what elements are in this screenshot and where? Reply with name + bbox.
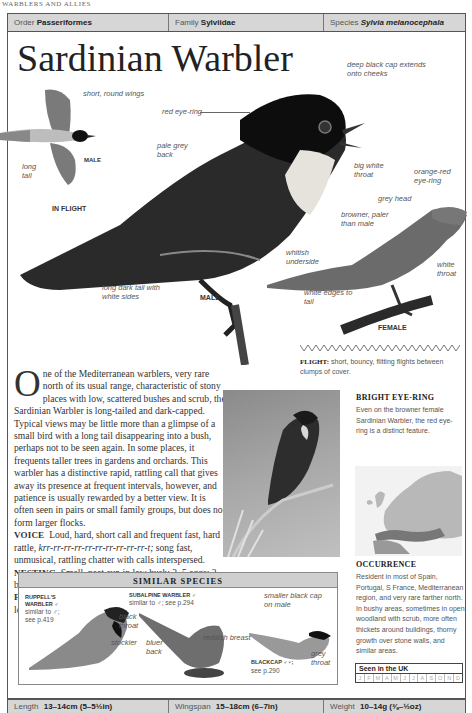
label-white-throat: white throat <box>437 260 467 278</box>
similar-species-note: similar to ♂; see p.419 <box>25 608 65 624</box>
dropcap: O <box>14 369 41 399</box>
label-red-eye-ring: red eye-ring <box>162 107 202 116</box>
length-cell: Length 13–14cm (5–5½in) <box>8 700 169 713</box>
similar-species-note: see p.290 <box>251 667 280 675</box>
measurements-bar: Length 13–14cm (5–5½in) Wingspan 15–18cm… <box>7 699 466 713</box>
similar-species-panel: SIMILAR SPECIES RUPPELL'S WARBLER ♂ simi… <box>18 572 338 685</box>
similar-species-name: RUPPELL'S WARBLER ♂ <box>25 594 65 608</box>
species-cell: Species Sylvia melanocephala <box>324 14 465 31</box>
wingspan-value: 15–18cm (6–7in) <box>216 702 278 711</box>
order-label: Order <box>14 18 34 27</box>
similar-species-heading: SIMILAR SPECIES <box>19 573 337 588</box>
month-jul: J <box>410 674 419 682</box>
wingspan-cell: Wingspan 15–18cm (6–7in) <box>169 700 324 713</box>
family-value: Sylviidae <box>201 18 236 27</box>
page-title: Sardinian Warbler <box>17 36 293 80</box>
caption-female: FEMALE <box>378 324 407 331</box>
species-value: Sylvia melanocephala <box>361 18 444 27</box>
family-label: Family <box>175 18 199 27</box>
month-mar: M <box>374 674 383 682</box>
photo-caption-text: Even on the browner female Sardinian War… <box>356 405 464 437</box>
month-may: M <box>392 674 401 682</box>
description-text: ne of the Mediterranean warblers, very r… <box>14 368 226 528</box>
distribution-map <box>355 466 462 556</box>
month-aug: A <box>418 674 427 682</box>
female-photo <box>223 390 340 557</box>
label-big-white-throat: big white throat <box>354 161 394 179</box>
leader-line <box>200 112 250 113</box>
voice-label: VOICE <box>14 530 44 540</box>
flight-label: FLIGHT: <box>300 358 329 366</box>
flight-description: FLIGHT: short, bouncy, flitting flights … <box>300 357 460 377</box>
weight-cell: Weight 10–14g (⅜–½oz) <box>324 700 465 713</box>
similar-species-name: BLACKCAP ♂♀; <box>251 659 293 666</box>
similar-species-name: SUBALPINE WARBLER ♂ <box>129 592 196 599</box>
length-value: 13–14cm (5–5½in) <box>44 702 113 711</box>
label-grey-head: grey head <box>378 194 411 203</box>
similar-species-note: similar to ♂; see p.294 <box>129 599 194 607</box>
label-deep-black-cap: deep black cap extends onto cheeks <box>347 60 437 78</box>
caption-male: MALE <box>200 294 220 301</box>
order-cell: Order Passeriformes <box>8 14 169 31</box>
taxonomy-bar: Order Passeriformes Family Sylviidae Spe… <box>7 13 466 32</box>
label-grey-throat: grey throat <box>311 649 336 667</box>
photo-caption-title: BRIGHT EYE-RING <box>356 393 434 402</box>
species-label: Species <box>330 18 358 27</box>
month-nov: N <box>445 674 454 682</box>
weight-value: 10–14g (⅜–½oz) <box>360 702 421 711</box>
weight-label: Weight <box>330 702 355 711</box>
month-jan: J <box>356 674 365 682</box>
label-smaller-black-cap: smaller black cap on male <box>264 591 324 609</box>
label-bluer-back: bluer back <box>146 638 168 656</box>
month-feb: F <box>365 674 374 682</box>
month-jun: J <box>401 674 410 682</box>
seen-in-uk-calendar: Seen in the UK J F M A M J J A S O N D <box>355 663 463 683</box>
month-sep: S <box>427 674 436 682</box>
month-dec: D <box>454 674 462 682</box>
label-white-edges-tail: white edges to tail <box>304 288 354 306</box>
seen-in-uk-title: Seen in the UK <box>356 664 462 674</box>
month-row: J F M A M J J A S O N D <box>356 674 462 682</box>
wingspan-label: Wingspan <box>175 702 211 711</box>
length-label: Length <box>14 702 38 711</box>
label-reddish-breast: reddish breast <box>203 633 251 642</box>
label-black-throat: black throat <box>119 612 144 630</box>
month-apr: A <box>383 674 392 682</box>
label-pale-grey-back: pale grey back <box>157 141 197 159</box>
voice-call: krr-rr-rr-rr-rr-rr-rr-rr-rr-rr-t; <box>39 542 154 553</box>
running-head: WARBLERS AND ALLIES <box>2 0 91 8</box>
label-stockier: stockier <box>111 638 137 647</box>
label-browner-paler: browner, paler than male <box>341 210 396 228</box>
label-orange-red-eye-ring: orange-red eye-ring <box>414 167 464 185</box>
order-value: Passeriformes <box>37 18 92 27</box>
month-oct: O <box>436 674 445 682</box>
occurrence-title: OCCURRENCE <box>356 560 416 569</box>
label-long-dark-tail: long dark tail with white sides <box>102 283 172 301</box>
occurrence-text: Resident in most of Spain, Portugal, S F… <box>356 572 466 657</box>
flight-pattern-zigzag-icon <box>300 343 460 353</box>
family-cell: Family Sylviidae <box>169 14 324 31</box>
